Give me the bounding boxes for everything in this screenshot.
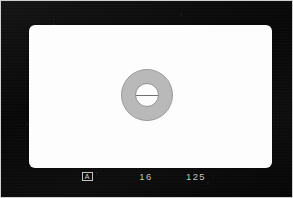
aperture-value-indicator: 16 [133,170,159,183]
shutter-speed-indicator: 125 [179,170,213,183]
split-image-rangefinder [121,69,173,121]
shutter-speed-value: 125 [186,172,206,182]
viewfinder-readout-strip: A 16 125 [29,170,272,183]
viewfinder-screenshot: A 16 125 [0,0,293,198]
split-image-circle [135,83,159,107]
exposure-mode-indicator: A [77,170,97,183]
aperture-value: 16 [139,172,152,182]
aperture-priority-mode-badge: A [82,172,93,181]
split-image-divider-line [136,95,159,96]
